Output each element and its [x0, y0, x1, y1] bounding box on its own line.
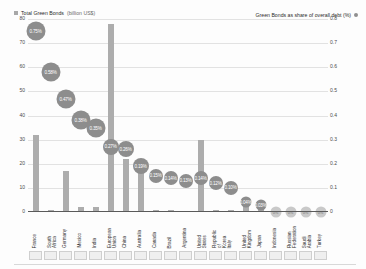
legend-left-units: (billion US$)	[67, 10, 95, 16]
bar-germany	[63, 171, 69, 212]
bar-france	[33, 135, 39, 212]
flag-cell	[58, 249, 73, 262]
y-tick-right: 0.2	[330, 161, 352, 166]
x-label-japan: Japan	[258, 235, 263, 248]
x-label-european-union: European Union	[108, 228, 118, 248]
flag-cell	[28, 249, 43, 262]
y-tick-left: 80	[5, 16, 25, 21]
x-label-mexico: Mexico	[78, 233, 83, 248]
flag-cell	[223, 249, 238, 262]
gridline	[28, 140, 328, 141]
flag-icon-european-union	[104, 251, 117, 260]
x-label-south-africa: South Africa	[48, 236, 58, 248]
y-tick-left: 20	[5, 161, 25, 166]
flag-cell	[88, 249, 103, 262]
x-axis-labels: FranceSouth AfricaGermanyMexicoIndiaEuro…	[28, 214, 328, 248]
bottom-divider	[14, 264, 356, 265]
y-tick-left: 30	[5, 137, 25, 142]
x-label-canada: Canada	[153, 232, 158, 248]
x-label-india: India	[93, 238, 98, 248]
gridline	[28, 43, 328, 44]
x-label-france: France	[33, 234, 38, 248]
legend-left-label: Total Green Bonds	[21, 10, 64, 16]
y-tick-right: 0.4	[330, 113, 352, 118]
flag-cell	[178, 249, 193, 262]
flag-cell	[193, 249, 208, 262]
x-label-turkey: Turkey	[318, 234, 323, 248]
bubble-italy: 0.10%	[224, 181, 238, 195]
y-tick-right: 0.7	[330, 40, 352, 45]
flag-icon-japan	[254, 251, 267, 260]
bubble-germany: 0.47%	[56, 89, 75, 108]
y-tick-left: 70	[5, 40, 25, 45]
flag-icon-united-kingdom	[239, 251, 252, 260]
flag-cell	[43, 249, 58, 262]
legend-total-green-bonds: Total Green Bonds (billion US$)	[14, 10, 95, 16]
y-tick-right: 0.1	[330, 185, 352, 190]
bar-china	[123, 159, 129, 212]
x-label-saudi-arabia: Saudi Arabia	[303, 235, 313, 248]
bubble-china: 0.26%	[118, 141, 134, 157]
flag-icon-saudi-arabia	[299, 251, 312, 260]
gridline	[28, 19, 328, 20]
flag-cell	[238, 249, 253, 262]
y-tick-left: 50	[5, 88, 25, 93]
x-label-italy: Italy	[228, 240, 233, 248]
bubble-republic-of-korea: 0.12%	[209, 176, 223, 190]
flag-cell	[268, 249, 283, 262]
x-label-united-kingdom: United Kingdom	[243, 230, 253, 248]
x-label-argentina: Argentina	[183, 228, 188, 248]
flag-icon-south-africa	[44, 251, 57, 260]
y-tick-left: 10	[5, 185, 25, 190]
flag-cell	[103, 249, 118, 262]
bubble-argentina: 0.13%	[179, 174, 193, 188]
flag-icon-italy	[224, 251, 237, 260]
y-tick-right: 0.5	[330, 88, 352, 93]
flag-cell	[163, 249, 178, 262]
flag-icon-canada	[149, 251, 162, 260]
y-tick-left: 0	[5, 209, 25, 214]
flag-cell	[73, 249, 88, 262]
flag-icon-india	[89, 251, 102, 260]
flag-icon-united-states	[194, 251, 207, 260]
flag-icon-indonesia	[269, 251, 282, 260]
bubble-japan: 0.03%	[255, 199, 266, 210]
x-label-republic-of-korea: Republic of Korea	[213, 230, 227, 248]
bar-european-union	[108, 24, 114, 212]
bubble-australia: 0.19%	[133, 158, 149, 174]
plot-area: 80706050403020100 0.80.70.60.50.40.30.20…	[28, 19, 328, 212]
bubble-france: 0.75%	[26, 22, 45, 41]
y-tick-right: 0.3	[330, 137, 352, 142]
flag-icon-france	[29, 251, 42, 260]
x-label-brazil: Brazil	[168, 237, 173, 249]
flag-icon-mexico	[74, 251, 87, 260]
flag-icon-republic-of-korea	[209, 251, 222, 260]
flag-strip	[28, 249, 328, 262]
x-label-indonesia: Indonesia	[273, 228, 278, 248]
y-tick-right: 0.8	[330, 16, 352, 21]
x-label-china: China	[123, 236, 128, 248]
x-label-australia: Australia	[138, 230, 143, 248]
flag-icon-russian-federation	[284, 251, 297, 260]
flag-icon-brazil	[164, 251, 177, 260]
x-axis-line	[28, 211, 328, 212]
flag-cell	[298, 249, 313, 262]
legend-bar-swatch-icon	[14, 11, 18, 15]
bubble-south-africa: 0.58%	[41, 63, 60, 82]
bubble-india: 0.35%	[86, 118, 105, 137]
y-tick-right: 0.6	[330, 64, 352, 69]
bubble-united-kingdom: 0.04%	[240, 197, 251, 208]
chart-figure: Total Green Bonds (billion US$) Green Bo…	[0, 0, 366, 269]
x-label-russian-federation: Russian Federation	[288, 226, 298, 248]
bubble-brazil: 0.14%	[164, 171, 178, 185]
x-label-germany: Germany	[63, 229, 68, 248]
gridline	[28, 188, 328, 189]
y-tick-right: 0	[330, 209, 352, 214]
bubble-canada: 0.15%	[149, 169, 163, 183]
y-tick-left: 40	[5, 113, 25, 118]
bubble-united-states: 0.14%	[194, 171, 208, 185]
flag-cell	[253, 249, 268, 262]
flag-cell	[313, 249, 328, 262]
flag-icon-germany	[59, 251, 72, 260]
flag-cell	[283, 249, 298, 262]
